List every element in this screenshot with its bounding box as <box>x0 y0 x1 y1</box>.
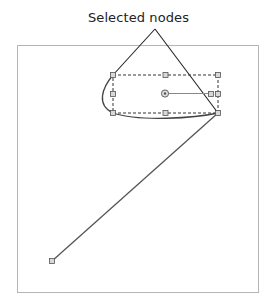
rotation-handle[interactable] <box>209 92 214 97</box>
rotation-center-icon[interactable] <box>161 90 168 97</box>
handle-bottom-left[interactable] <box>111 111 116 116</box>
handle-bottom-middle[interactable] <box>163 111 168 116</box>
handle-middle-right[interactable] <box>216 92 221 97</box>
diagram-canvas[interactable] <box>0 0 277 306</box>
handle-bottom-right[interactable] <box>216 111 221 116</box>
callout-line-left <box>113 29 155 75</box>
callout-line-right <box>155 29 218 113</box>
page-frame <box>18 46 259 293</box>
handle-middle-left[interactable] <box>111 92 116 97</box>
handle-top-left[interactable] <box>111 73 116 78</box>
handle-top-middle[interactable] <box>163 73 168 78</box>
path-line-long <box>52 113 218 261</box>
handle-top-right[interactable] <box>216 73 221 78</box>
end-node-handle[interactable] <box>50 259 55 264</box>
